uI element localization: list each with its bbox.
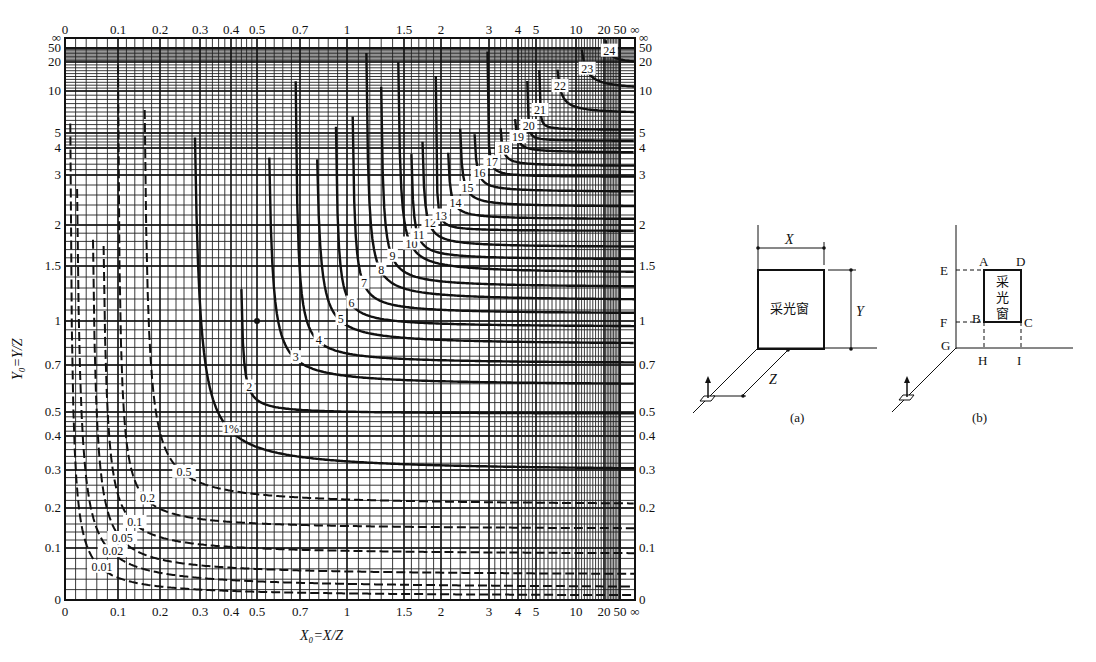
dim-x-dot xyxy=(756,246,760,250)
isoline-label: 13 xyxy=(433,209,450,223)
isoline-label: 3 xyxy=(290,350,301,364)
x-tick-label-bottom: 1.5 xyxy=(396,604,412,619)
x-tick-label-bottom: 5 xyxy=(533,604,540,619)
svg-text:3: 3 xyxy=(293,350,299,364)
dim-y-dot xyxy=(849,268,853,272)
svg-text:22: 22 xyxy=(554,79,566,93)
y-tick-label-right: 1 xyxy=(639,313,646,328)
y-tick-label-right: 0.4 xyxy=(639,428,656,443)
measurement-point-icon xyxy=(700,376,715,401)
y-tick-label-left: 10 xyxy=(48,83,61,98)
isoline-label: 0.05 xyxy=(107,531,137,545)
y-axis-title: Y₀=Y/Z xyxy=(10,338,25,380)
window-label-b-2: 光 xyxy=(996,290,1009,305)
caption-b: (b) xyxy=(972,410,987,425)
x-tick-label-bottom: 10 xyxy=(570,604,583,619)
svg-text:21: 21 xyxy=(534,103,546,117)
isoline-label: 8 xyxy=(376,263,387,277)
x-axis-title: X₀=X/Z xyxy=(299,628,343,643)
point-E: E xyxy=(940,263,948,278)
y-tick-label-right: 4 xyxy=(639,140,646,155)
y-tick-label-right: 3 xyxy=(639,167,646,182)
isoline-label: 11 xyxy=(410,228,427,242)
svg-text:6: 6 xyxy=(349,296,355,310)
x-axis-bottom: 00.10.20.30.40.50.711.52345102050∞ xyxy=(62,604,640,619)
svg-text:17: 17 xyxy=(486,155,498,169)
dim-z-dot xyxy=(786,348,790,352)
svg-text:1%: 1% xyxy=(223,422,239,436)
y-tick-label-right: 0 xyxy=(639,592,646,607)
svg-text:0.05: 0.05 xyxy=(112,531,133,545)
y-tick-label-left: 20 xyxy=(48,54,61,69)
point-C: C xyxy=(1024,315,1033,330)
point-A: A xyxy=(979,254,989,269)
isoline-label: 18 xyxy=(495,142,512,156)
x-tick-label-top: 2 xyxy=(438,22,445,37)
point-H: H xyxy=(978,353,987,368)
marker-point xyxy=(254,318,260,324)
point-D: D xyxy=(1016,254,1025,269)
point-I: I xyxy=(1017,353,1021,368)
x-tick-label-top: 5 xyxy=(533,22,540,37)
x-tick-label-bottom: 0 xyxy=(62,604,69,619)
y-tick-label-right: 0.2 xyxy=(639,500,655,515)
y-tick-label-right: 20 xyxy=(639,54,652,69)
x-tick-label-top: 50 xyxy=(614,22,627,37)
x-tick-label-bottom: 50 xyxy=(614,604,627,619)
isoline-label: 15 xyxy=(459,181,476,195)
x-tick-label-bottom: 0.3 xyxy=(192,604,208,619)
svg-text:11: 11 xyxy=(413,228,425,242)
svg-text:15: 15 xyxy=(461,181,473,195)
diagram-b: 采 光 窗 A D E F B C G H I (b) xyxy=(892,225,1073,425)
y-tick-label-right: 5 xyxy=(639,125,646,140)
x-tick-label-top: 0 xyxy=(62,22,69,37)
y-tick-label-right: 10 xyxy=(639,83,652,98)
x-tick-label-top: 0.7 xyxy=(292,22,309,37)
isoline-1pct xyxy=(195,137,635,468)
isoline-label: 21 xyxy=(532,103,549,117)
x-tick-label-bottom: 0.4 xyxy=(223,604,240,619)
y-tick-label-left: 1 xyxy=(55,313,62,328)
x-axis-top: 00.10.20.30.40.50.711.52345102050∞ xyxy=(62,22,640,37)
y-tick-label-right: 0.7 xyxy=(639,357,656,372)
isoline-label: 9 xyxy=(387,249,398,263)
isoline-label: 24 xyxy=(601,44,618,58)
x-tick-label-bottom: 4 xyxy=(515,604,522,619)
isoline-label: 14 xyxy=(447,196,464,210)
point-B: B xyxy=(972,311,981,326)
measurement-point-icon xyxy=(899,376,914,400)
y-tick-label-right: 1.5 xyxy=(639,258,655,273)
depth-line-b xyxy=(892,348,956,412)
dim-z-dot xyxy=(741,394,745,398)
svg-text:7: 7 xyxy=(361,276,367,290)
svg-text:14: 14 xyxy=(449,196,461,210)
dim-y-dot xyxy=(849,347,853,351)
daylight-factor-chart: 00.10.20.30.40.50.711.52345102050∞ 00.10… xyxy=(0,0,1096,662)
isoline-label: 1% xyxy=(223,422,240,436)
y-tick-label-left: 0 xyxy=(55,592,62,607)
svg-text:0.02: 0.02 xyxy=(102,544,123,558)
isoline-label: 22 xyxy=(552,79,569,93)
isoline-label: 2 xyxy=(244,380,255,394)
isoline-label: 5 xyxy=(335,312,346,326)
isoline-label: 17 xyxy=(483,155,500,169)
svg-text:0.01: 0.01 xyxy=(92,560,113,574)
svg-text:0.2: 0.2 xyxy=(140,491,155,505)
isolines xyxy=(70,40,635,595)
svg-text:2: 2 xyxy=(246,380,252,394)
isoline-label: 0.1 xyxy=(123,515,147,529)
dim-y-label: Y xyxy=(856,304,866,319)
depth-line-a xyxy=(693,348,758,413)
isoline-label: 7 xyxy=(359,276,370,290)
y-tick-label-left: 5 xyxy=(55,125,62,140)
x-tick-label-top: 0.5 xyxy=(249,22,265,37)
caption-a: (a) xyxy=(790,410,804,425)
x-tick-label-top: 1 xyxy=(344,22,351,37)
svg-text:0.5: 0.5 xyxy=(177,465,192,479)
y-tick-label-right: 2 xyxy=(639,217,646,232)
x-tick-label-top: 0.3 xyxy=(192,22,208,37)
y-tick-label-left: 3 xyxy=(55,167,62,182)
y-tick-label-left: 1.5 xyxy=(45,258,61,273)
isoline-label: 0.01 xyxy=(87,560,117,574)
isoline-0.2 xyxy=(118,65,634,528)
